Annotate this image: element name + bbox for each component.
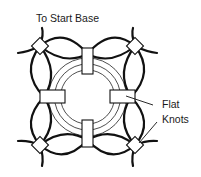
knot-bottom-right — [127, 137, 144, 154]
knot-top-right — [127, 38, 144, 55]
inner-knots — [40, 48, 135, 147]
knot-right — [110, 90, 135, 103]
label-flat: Flat — [162, 99, 180, 110]
label-knots: Knots — [162, 114, 189, 125]
knot-bottom-left — [32, 137, 49, 154]
knot-left — [40, 90, 65, 103]
knot-bottom — [82, 120, 93, 147]
knot-top-left — [32, 38, 49, 55]
macrame-knot-diagram — [0, 0, 201, 177]
label-to-start-base: To Start Base — [36, 13, 99, 24]
knot-top — [82, 48, 93, 74]
